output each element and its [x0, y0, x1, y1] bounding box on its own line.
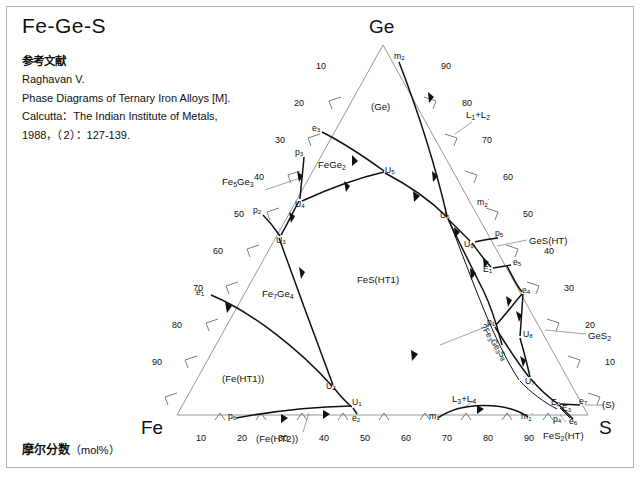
right-axis-ticks: [424, 97, 600, 405]
point-label-e1: e1: [196, 288, 204, 298]
point-label-m2: m2: [394, 52, 405, 62]
point-label-U1: U1: [352, 398, 362, 408]
tick-left-20: 20: [294, 99, 304, 108]
phase-label-S: (S): [602, 400, 615, 410]
point-label-e4: e4: [522, 286, 530, 296]
point-label-U5: U5: [385, 166, 395, 176]
tick-right-50: 50: [523, 210, 533, 219]
tick-bottom-90: 90: [524, 434, 534, 443]
point-label-e5: e5: [513, 258, 521, 268]
tick-right-40: 40: [544, 247, 554, 256]
tick-right-10: 10: [605, 358, 615, 367]
point-label-U3: U3: [276, 236, 286, 246]
phase-label-Fe-HT2: (Fe(HT2)): [256, 434, 298, 444]
vertex-label-Ge: Ge: [369, 16, 394, 38]
point-label-e6: e6: [569, 417, 577, 427]
phase-label-FeGe2: FeGe2: [318, 160, 346, 171]
flow-direction-arrows: [225, 92, 526, 423]
point-label-e7: e7: [579, 397, 587, 407]
tick-bottom-20: 20: [237, 434, 247, 443]
phase-label-Fe5Ge3: Fe5Ge3: [222, 177, 254, 188]
phase-label-L1L2: L1+L2: [466, 110, 490, 121]
point-label-e2: e2: [352, 414, 360, 424]
point-label-U8: U8: [523, 330, 533, 340]
phase-label-FeS-HT1: FeS(HT1): [357, 275, 399, 285]
point-label-m1: m1: [429, 412, 440, 422]
phase-label-GeS-HT: GeS(HT): [529, 236, 567, 246]
tick-right-90: 90: [441, 62, 451, 71]
tick-right-80: 80: [462, 99, 472, 108]
point-label-U6: U6: [440, 211, 450, 221]
tick-right-20: 20: [585, 321, 595, 330]
tick-left-10: 10: [316, 62, 326, 71]
tick-left-40: 40: [254, 173, 264, 182]
point-label-U7: U7: [525, 377, 535, 387]
point-label-E3: E3: [562, 404, 571, 414]
tick-right-60: 60: [503, 173, 513, 182]
tick-left-30: 30: [275, 136, 285, 145]
phase-label-FeS2-HT: FeS2(HT): [543, 431, 584, 442]
point-label-e3: e3: [312, 124, 320, 134]
tick-right-30: 30: [564, 284, 574, 293]
tick-left-50: 50: [234, 210, 244, 219]
point-label-p5: p5: [495, 229, 503, 239]
point-label-p6: p6: [228, 412, 236, 422]
point-label-p4: p4: [553, 415, 561, 425]
vertex-label-Fe: Fe: [141, 417, 163, 439]
phase-label-Fe-HT1: (Fe(HT1)): [222, 374, 264, 384]
diagram-page: Fe-Ge-S 参考文献 Raghavan V. Phase Diagrams …: [0, 0, 643, 480]
bottom-axis-ticks: [215, 413, 553, 420]
tick-right-70: 70: [482, 136, 492, 145]
tick-bottom-50: 50: [360, 434, 370, 443]
point-label-p1: p1: [487, 318, 495, 328]
phase-label-L3L4: L3+L4: [452, 394, 476, 405]
tick-bottom-60: 60: [401, 434, 411, 443]
point-label-U9: U9: [464, 240, 474, 250]
tick-left-90: 90: [152, 358, 162, 367]
tick-left-80: 80: [172, 321, 182, 330]
point-label-m2-prime: m2': [477, 198, 489, 208]
tick-bottom-80: 80: [483, 434, 493, 443]
phase-label-Ge: (Ge): [371, 102, 390, 112]
phase-label-GeS2: GeS2: [588, 331, 611, 342]
point-label-E2: E2: [551, 398, 560, 408]
vertex-label-S: S: [599, 417, 612, 439]
point-label-E1: E1: [483, 265, 492, 275]
point-label-U4: U4: [295, 200, 305, 210]
phase-label-Fe7Ge4: Fe7Ge4: [262, 289, 294, 300]
point-label-p3: p3: [295, 148, 303, 158]
tick-bottom-10: 10: [196, 434, 206, 443]
point-label-p2: p2: [253, 206, 261, 216]
point-label-m1-prime: m1': [521, 412, 533, 422]
point-label-U2: U2: [326, 382, 336, 392]
tick-bottom-40: 40: [319, 434, 329, 443]
tick-bottom-70: 70: [442, 434, 452, 443]
left-axis-ticks: [165, 97, 341, 405]
tick-left-60: 60: [213, 247, 223, 256]
